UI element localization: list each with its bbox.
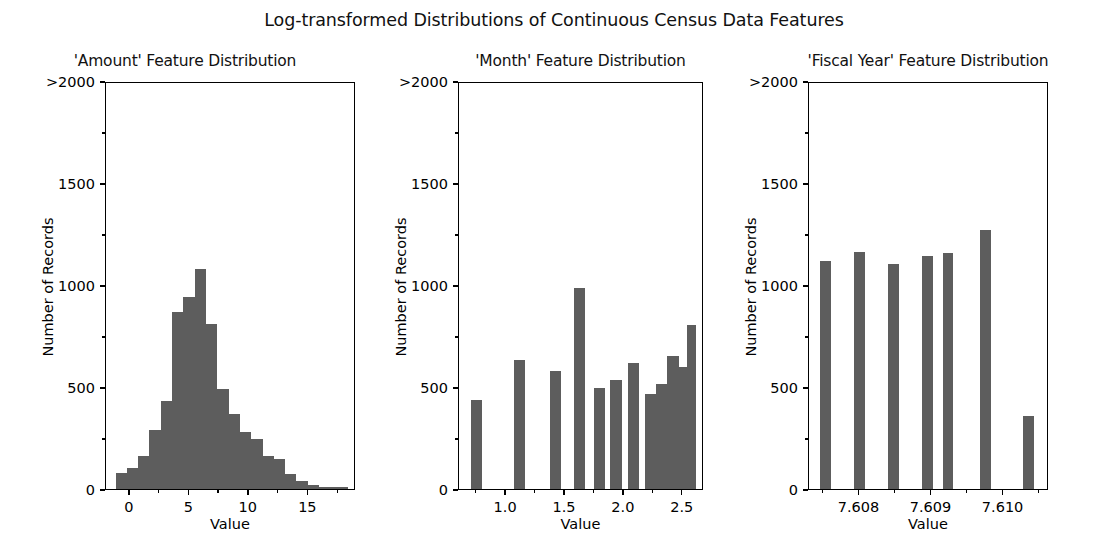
histogram-bar bbox=[820, 261, 831, 489]
subplot-title-fiscal-year: 'Fiscal Year' Feature Distribution bbox=[748, 52, 1108, 70]
y-axis-tick bbox=[803, 81, 808, 82]
yaxis-label-fiscal-year: Number of Records bbox=[743, 197, 759, 377]
x-axis-tick bbox=[930, 490, 931, 495]
x-axis-minor-tick bbox=[966, 490, 967, 493]
x-axis-tick bbox=[858, 490, 859, 495]
histogram-bar bbox=[1023, 416, 1034, 489]
y-axis-tick-label: 500 bbox=[696, 380, 798, 396]
histogram-bar bbox=[922, 256, 933, 489]
figure-canvas: Log-transformed Distributions of Continu… bbox=[0, 0, 1108, 555]
x-axis-tick bbox=[1002, 490, 1003, 495]
histogram-bar bbox=[943, 253, 954, 489]
y-axis-minor-tick bbox=[805, 234, 808, 235]
x-axis-tick-label: 7.610 bbox=[982, 499, 1024, 515]
y-axis-tick-label: 1500 bbox=[696, 176, 798, 192]
histogram-bar bbox=[980, 230, 991, 489]
y-axis-tick bbox=[803, 183, 808, 184]
y-axis-tick-label: 0 bbox=[696, 482, 798, 498]
axes-fiscal-year bbox=[808, 82, 1048, 490]
y-axis-tick bbox=[803, 285, 808, 286]
y-axis-tick bbox=[803, 489, 808, 490]
x-axis-minor-tick bbox=[894, 490, 895, 493]
x-axis-minor-tick bbox=[822, 490, 823, 493]
x-axis-tick-label: 7.609 bbox=[910, 499, 952, 515]
x-axis-minor-tick bbox=[1038, 490, 1039, 493]
histogram-bar bbox=[854, 252, 865, 489]
y-axis-tick bbox=[803, 387, 808, 388]
y-axis-minor-tick bbox=[805, 132, 808, 133]
y-axis-tick-label: >2000 bbox=[696, 74, 798, 90]
xaxis-label-fiscal-year: Value bbox=[808, 516, 1048, 532]
y-axis-minor-tick bbox=[805, 438, 808, 439]
histogram-bar bbox=[888, 264, 899, 489]
plot-area-fiscal-year bbox=[809, 83, 1047, 489]
y-axis-minor-tick bbox=[805, 336, 808, 337]
subplot-fiscal-year: 'Fiscal Year' Feature Distribution 05001… bbox=[0, 0, 1108, 555]
x-axis-tick-label: 7.608 bbox=[838, 499, 880, 515]
